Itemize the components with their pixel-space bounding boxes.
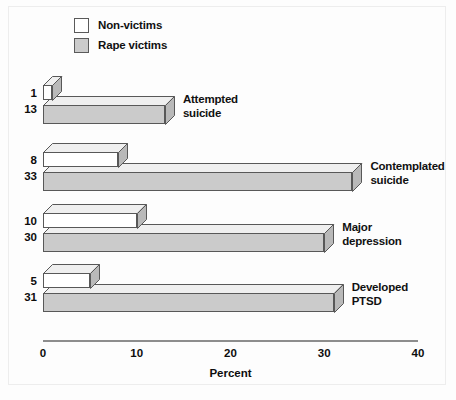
bar-contemplated-suicide-non-victims-side-face	[118, 143, 129, 169]
value-label-contemplated-suicide-non-victims: 8	[11, 154, 37, 166]
bar-contemplated-suicide-rape-victims-side-face	[352, 163, 363, 193]
category-label-attempted-suicide: Attemptedsuicide	[183, 93, 238, 120]
value-label-major-depression-non-victims: 10	[11, 215, 37, 227]
category-label-contemplated-suicide: Contemplatedsuicide	[370, 160, 444, 187]
bar-contemplated-suicide-non-victims-top-face	[43, 143, 127, 152]
category-label-major-depression: Majordepression	[342, 221, 401, 248]
category-label-developed-ptsd-line1: Developed	[352, 281, 408, 295]
value-label-major-depression-rape-victims: 30	[11, 231, 37, 243]
category-label-developed-ptsd: DevelopedPTSD	[352, 281, 408, 308]
x-axis-line	[43, 340, 418, 342]
bar-major-depression-rape-victims-side-face	[324, 224, 335, 254]
category-label-attempted-suicide-line2: suicide	[183, 107, 238, 121]
bar-attempted-suicide-rape-victims-side-face	[165, 96, 176, 126]
bar-attempted-suicide-non-victims-front-face	[43, 85, 52, 100]
bar-major-depression-non-victims-top-face	[43, 204, 146, 213]
x-tick-label-20: 20	[211, 347, 251, 359]
bar-contemplated-suicide-rape-victims-front-face	[43, 172, 352, 191]
bar-developed-ptsd-rape-victims-front-face	[43, 293, 334, 312]
bar-developed-ptsd-non-victims-front-face	[43, 273, 90, 288]
bar-attempted-suicide-rape-victims-front-face	[43, 105, 165, 124]
x-tick-label-30: 30	[304, 347, 344, 359]
category-label-contemplated-suicide-line1: Contemplated	[370, 160, 444, 174]
category-label-major-depression-line2: depression	[342, 235, 401, 249]
category-label-contemplated-suicide-line2: suicide	[370, 174, 444, 188]
bar-developed-ptsd-rape-victims-side-face	[334, 284, 345, 314]
x-tick-label-0: 0	[23, 347, 63, 359]
bar-contemplated-suicide-non-victims-front-face	[43, 152, 118, 167]
x-tick-label-40: 40	[398, 347, 438, 359]
bar-major-depression-non-victims-side-face	[137, 204, 148, 230]
bar-major-depression-non-victims-front-face	[43, 213, 137, 228]
category-label-major-depression-line1: Major	[342, 221, 401, 235]
x-axis-title: Percent	[171, 367, 291, 379]
x-tick-label-10: 10	[117, 347, 157, 359]
value-label-contemplated-suicide-rape-victims: 33	[11, 170, 37, 182]
bar-attempted-suicide-non-victims-side-face	[52, 76, 63, 102]
bar-attempted-suicide-non-victims-top-face	[43, 76, 61, 85]
bar-attempted-suicide-rape-victims-top-face	[43, 96, 174, 105]
value-label-attempted-suicide-rape-victims: 13	[11, 103, 37, 115]
value-label-developed-ptsd-rape-victims: 31	[11, 291, 37, 303]
chart-figure: Non-victims Rape victims 113Attemptedsui…	[0, 0, 456, 400]
bar-major-depression-rape-victims-front-face	[43, 233, 324, 252]
bar-developed-ptsd-non-victims-top-face	[43, 264, 99, 273]
value-label-developed-ptsd-non-victims: 5	[11, 275, 37, 287]
category-label-attempted-suicide-line1: Attempted	[183, 93, 238, 107]
bar-developed-ptsd-non-victims-side-face	[90, 264, 101, 290]
category-label-developed-ptsd-line2: PTSD	[352, 295, 408, 309]
value-label-attempted-suicide-non-victims: 1	[11, 87, 37, 99]
